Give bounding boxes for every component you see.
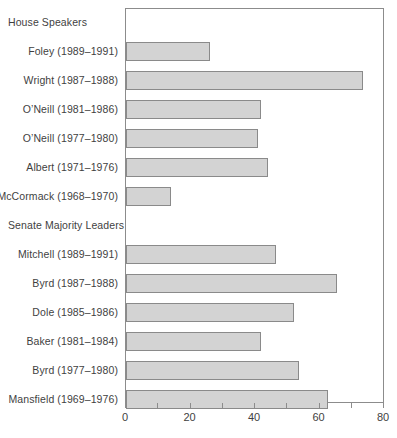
category-label: Wright (1987–1988) — [0, 66, 118, 95]
category-label: Baker (1981–1984) — [0, 327, 118, 356]
x-axis-tick-label: 80 — [377, 411, 389, 423]
x-axis-tick — [383, 403, 384, 408]
chart-bar-row: Albert (1971–1976) — [0, 153, 397, 182]
x-axis-tick-label: 0 — [122, 411, 128, 423]
bar — [126, 187, 171, 206]
category-label: Mitchell (1989–1991) — [0, 240, 118, 269]
bar-track — [126, 211, 384, 240]
bar — [126, 158, 268, 177]
bar-track — [126, 240, 384, 269]
bar-track — [126, 37, 384, 66]
section-heading: Senate Majority Leaders — [0, 211, 126, 240]
bar — [126, 129, 258, 148]
category-label: O’Neill (1977–1980) — [0, 124, 118, 153]
bar-track — [126, 124, 384, 153]
category-label: Dole (1985–1986) — [0, 298, 118, 327]
x-axis-tick — [319, 403, 320, 408]
chart-section-row: House Speakers — [0, 8, 397, 37]
category-label: O’Neill (1981–1986) — [0, 95, 118, 124]
x-axis-tick — [190, 403, 191, 408]
chart-bar-row: Byrd (1977–1980) — [0, 356, 397, 385]
bar-track — [126, 269, 384, 298]
chart-bar-row: Mitchell (1989–1991) — [0, 240, 397, 269]
x-axis-tick — [351, 403, 352, 408]
category-label: Byrd (1987–1988) — [0, 269, 118, 298]
bar-track — [126, 8, 384, 37]
bar-track — [126, 66, 384, 95]
x-axis-tick-label: 60 — [312, 411, 324, 423]
x-axis-tick — [286, 403, 287, 408]
x-axis-tick — [254, 403, 255, 408]
category-label: Foley (1989–1991) — [0, 37, 118, 66]
x-axis-tick — [222, 403, 223, 408]
bar-track — [126, 298, 384, 327]
bar — [126, 245, 276, 264]
bar-track — [126, 182, 384, 211]
bar — [126, 332, 261, 351]
bar — [126, 42, 210, 61]
bar — [126, 274, 337, 293]
x-axis-tick-label: 40 — [248, 411, 260, 423]
bar-track — [126, 95, 384, 124]
chart-bar-row: McCormack (1968–1970) — [0, 182, 397, 211]
bar-track — [126, 153, 384, 182]
bar-track — [126, 327, 384, 356]
bar — [126, 303, 294, 322]
x-axis-tick — [157, 403, 158, 408]
category-label: Albert (1971–1976) — [0, 153, 118, 182]
category-label: Byrd (1977–1980) — [0, 356, 118, 385]
bar-track — [126, 356, 384, 385]
x-axis-tick — [125, 403, 126, 408]
chart-bar-row: O’Neill (1977–1980) — [0, 124, 397, 153]
x-axis-tick-label: 20 — [183, 411, 195, 423]
bar — [126, 361, 299, 380]
chart-bar-row: Foley (1989–1991) — [0, 37, 397, 66]
bar-chart: House SpeakersFoley (1989–1991)Wright (1… — [0, 0, 397, 438]
chart-bar-row: Baker (1981–1984) — [0, 327, 397, 356]
section-heading: House Speakers — [0, 8, 126, 37]
x-axis: 020406080 — [125, 403, 384, 438]
bar — [126, 71, 363, 90]
category-label: Mansfield (1969–1976) — [0, 385, 118, 414]
chart-bar-row: Dole (1985–1986) — [0, 298, 397, 327]
chart-section-row: Senate Majority Leaders — [0, 211, 397, 240]
chart-bar-row: Wright (1987–1988) — [0, 66, 397, 95]
bar — [126, 100, 261, 119]
category-label: McCormack (1968–1970) — [0, 182, 118, 211]
chart-bar-row: Byrd (1987–1988) — [0, 269, 397, 298]
chart-bar-row: O’Neill (1981–1986) — [0, 95, 397, 124]
